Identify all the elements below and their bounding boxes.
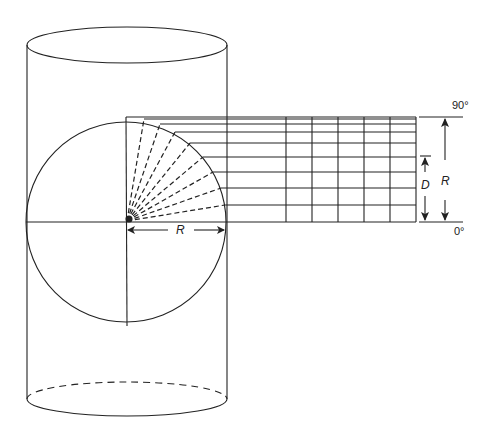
cylinder-bottom-back-arc: [27, 382, 227, 399]
radius-label-vertical: R: [441, 174, 450, 188]
radius-label-horizontal: R: [176, 223, 185, 237]
angle-90-label: 90°: [452, 99, 469, 111]
grid-vertical-lines: [286, 117, 416, 222]
depth-label: D: [421, 178, 430, 192]
center-point: [126, 216, 132, 222]
diagram-canvas: R R D 90° 0°: [0, 0, 492, 437]
cylinder-top-ellipse: [27, 27, 227, 63]
radial-dashed-lines: [127, 119, 225, 221]
cylinder-bottom-front-arc: [27, 399, 227, 416]
angle-0-label: 0°: [454, 225, 465, 237]
